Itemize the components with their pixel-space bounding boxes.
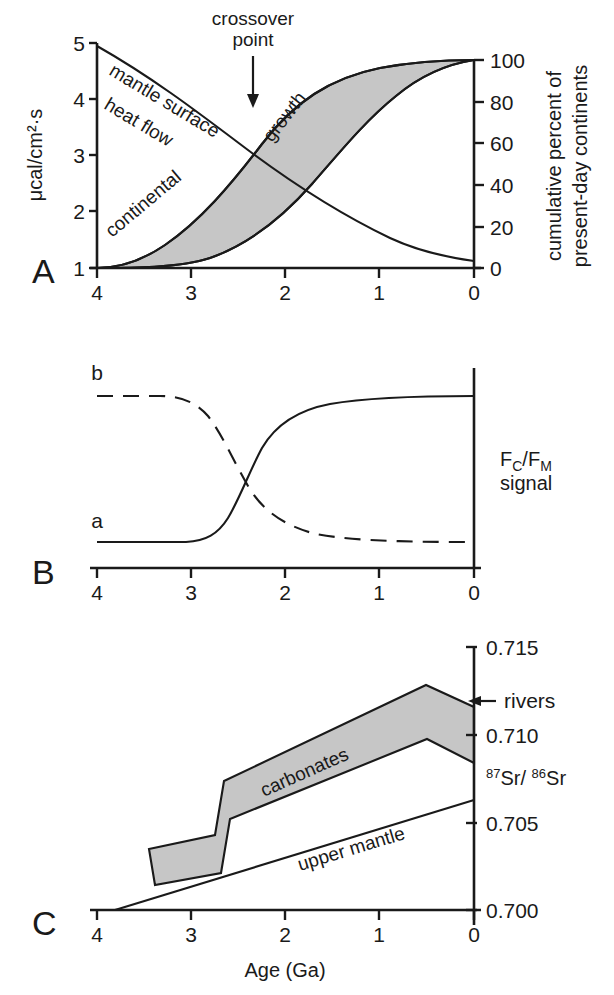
panel-c-xtick-0: 0: [468, 923, 480, 946]
panel-a-xtick-2: 2: [279, 281, 291, 304]
panel-c-xtick-1: 1: [373, 923, 385, 946]
panel-a: 5 4 3 2 1 4 3 2 1 0: [0, 0, 614, 330]
panel-b-letter: B: [32, 553, 55, 591]
panel-a-chart: 5 4 3 2 1 4 3 2 1 0: [0, 0, 614, 330]
curve-b: [97, 396, 474, 542]
scientific-figure: 5 4 3 2 1 4 3 2 1 0: [0, 0, 614, 995]
panel-b-xtick-2: 2: [279, 581, 291, 604]
panel-a-ytick-right-40: 40: [490, 174, 513, 197]
panel-c-ytick-0710: 0.710: [486, 724, 539, 747]
panel-a-ytick-right-60: 60: [490, 132, 513, 155]
crossover-arrow-head: [247, 94, 259, 108]
panel-b-ylabel-line1: FC/FM: [500, 448, 552, 474]
panel-a-ytick-4: 4: [73, 88, 85, 111]
panel-c-xtick-3: 3: [185, 923, 197, 946]
panel-b-xtick-1: 1: [373, 581, 385, 604]
panel-a-x-ticks: 4 3 2 1 0: [91, 268, 480, 304]
panel-a-ytick-right-20: 20: [490, 216, 513, 239]
panel-c-xlabel: Age (Ga): [244, 959, 325, 981]
label-curve-b: b: [91, 361, 103, 384]
sr-sup-87: 87: [486, 766, 500, 781]
label-rivers: rivers: [504, 689, 555, 712]
panel-c-ytick-0705: 0.705: [486, 812, 539, 835]
panel-a-ytick-right-80: 80: [490, 91, 513, 114]
panel-b-xtick-4: 4: [91, 581, 103, 604]
panel-c-xtick-2: 2: [279, 923, 291, 946]
panel-a-right-ticks: 100 80 60 40 20 0: [474, 49, 525, 280]
panel-a-ytick-right-100: 100: [490, 49, 525, 72]
label-curve-a: a: [91, 509, 103, 532]
fc-fm-F1: F: [500, 448, 512, 470]
crossover-annotation-line1: crossover: [212, 8, 295, 29]
panel-a-letter: A: [32, 252, 55, 290]
panel-c-ylabel: 87Sr/ 86Sr: [486, 766, 566, 789]
label-upper-mantle: upper mantle: [295, 822, 407, 875]
panel-c-ytick-0715: 0.715: [486, 636, 539, 659]
panel-a-xtick-3: 3: [185, 281, 197, 304]
panel-a-ytick-3: 3: [73, 144, 85, 167]
panel-a-xtick-0: 0: [468, 281, 480, 304]
panel-a-ytick-1: 1: [73, 257, 85, 280]
label-continental: continental: [101, 166, 185, 241]
panel-c-xtick-4: 4: [91, 923, 103, 946]
panel-a-ylabel-right-line1: cumulative percent of: [543, 71, 565, 262]
panel-c-ytick-0700: 0.700: [486, 899, 539, 922]
crossover-annotation-line2: point: [232, 29, 274, 50]
panel-c-x-ticks: 4 3 2 1 0: [91, 910, 480, 946]
panel-a-ytick-2: 2: [73, 200, 85, 223]
panel-b: 4 3 2 1 0 b a FC/FM signal B: [0, 330, 614, 605]
panel-c-chart: 0.715 0.710 0.705 0.700 4 3 2 1 0: [0, 605, 614, 995]
panel-b-chart: 4 3 2 1 0 b a FC/FM signal B: [0, 330, 614, 605]
panel-c-letter: C: [32, 904, 57, 942]
sr-sup-86: 86: [532, 766, 546, 781]
panel-c: 0.715 0.710 0.705 0.700 4 3 2 1 0: [0, 605, 614, 995]
panel-a-left-ticks: 5 4 3 2 1: [73, 32, 97, 280]
panel-b-x-ticks: 4 3 2 1 0: [91, 568, 480, 604]
sr-text-1: Sr/: [500, 767, 531, 789]
curve-a: [97, 396, 474, 542]
panel-a-xtick-1: 1: [373, 281, 385, 304]
panel-a-ylabel-left: μcal/cm²·s: [24, 109, 46, 202]
panel-a-ytick-5: 5: [73, 32, 85, 55]
panel-b-xtick-0: 0: [468, 581, 480, 604]
panel-a-ytick-right-0: 0: [490, 257, 502, 280]
panel-b-xtick-3: 3: [185, 581, 197, 604]
sr-text-2: Sr: [546, 767, 566, 789]
panel-a-xtick-4: 4: [91, 281, 103, 304]
panel-a-ylabel-right-line2: present-day continents: [569, 65, 591, 267]
fc-fm-slashF: /F: [522, 448, 540, 470]
panel-b-ylabel-line2: signal: [500, 472, 552, 494]
